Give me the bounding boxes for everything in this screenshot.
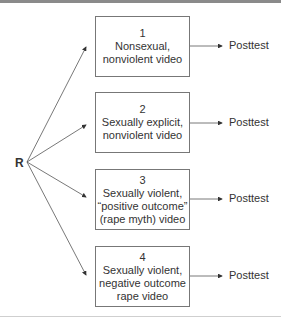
arrow-r-to-1: [27, 47, 86, 162]
condition-text: Sexually violent,: [103, 264, 183, 277]
bottom-rule: [0, 316, 281, 317]
arrow-r-to-4: [27, 162, 86, 275]
posttest-label-2: Posttest: [229, 116, 269, 128]
condition-text: Sexually explicit,: [102, 116, 183, 129]
condition-text: Nonsexual,: [115, 40, 170, 53]
condition-text: “positive outcome”: [98, 200, 188, 213]
condition-box-4: 4 Sexually violent, negative outcome rap…: [95, 246, 190, 307]
condition-number: 1: [139, 27, 145, 40]
posttest-label-1: Posttest: [229, 39, 269, 51]
condition-box-2: 2 Sexually explicit, nonviolent video: [95, 92, 190, 153]
randomization-label: R: [15, 156, 24, 170]
posttest-label-4: Posttest: [229, 269, 269, 281]
condition-text: (rape myth) video: [100, 213, 186, 226]
condition-text: rape video: [117, 290, 168, 303]
condition-box-1: 1 Nonsexual, nonviolent video: [95, 16, 190, 77]
condition-number: 3: [139, 174, 145, 187]
condition-text: Sexually violent,: [103, 187, 183, 200]
condition-text: nonviolent video: [103, 129, 183, 142]
condition-box-3: 3 Sexually violent, “positive outcome” (…: [95, 169, 190, 230]
condition-number: 2: [139, 103, 145, 116]
condition-number: 4: [139, 251, 145, 264]
arrow-r-to-2: [27, 125, 86, 162]
posttest-label-3: Posttest: [229, 192, 269, 204]
condition-text: nonviolent video: [103, 53, 183, 66]
condition-text: negative outcome: [99, 277, 186, 290]
